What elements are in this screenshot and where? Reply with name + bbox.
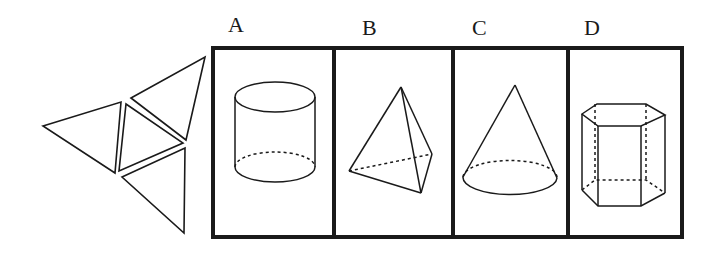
option-label-c: C (472, 17, 487, 39)
cylinder-shape (235, 82, 315, 182)
options-border (213, 48, 682, 237)
options-frame (213, 48, 682, 237)
net-triangle-top (131, 57, 205, 140)
pyramid-shape (349, 87, 432, 193)
option-label-a: A (228, 14, 244, 36)
diagram-stage: A B C D (0, 0, 722, 262)
option-label-d: D (584, 17, 600, 39)
diagram-svg (0, 0, 722, 262)
triangle-net (43, 57, 205, 233)
cone-shape (463, 85, 557, 195)
net-triangle-bottom (122, 148, 185, 233)
hexagonal-prism-shape (582, 104, 665, 206)
option-label-b: B (362, 17, 377, 39)
net-triangle-left (43, 102, 121, 173)
